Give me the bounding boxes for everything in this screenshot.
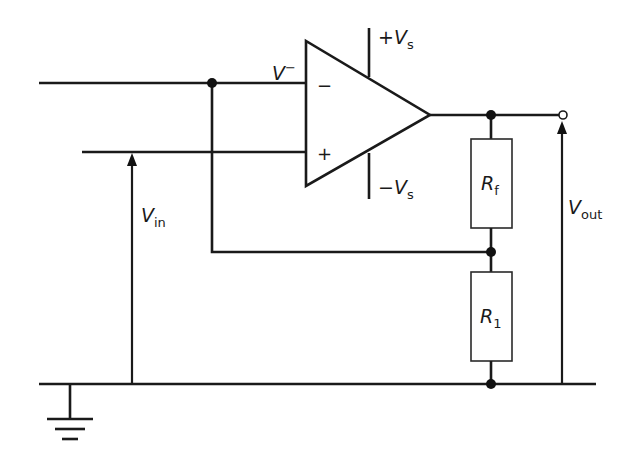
vout-arrow-icon: [557, 121, 567, 384]
negative-supply-label: −Vs: [378, 176, 414, 202]
inverting-node-junction: [207, 78, 217, 88]
vout-label: Vout: [568, 196, 602, 222]
vin-arrow-icon: [127, 153, 137, 384]
op-amp-circuit-diagram: − + V− +Vs −Vs Rf R1 Vin Vout: [0, 0, 631, 464]
ground-icon: [47, 384, 93, 439]
noninverting-symbol: +: [317, 143, 332, 164]
inverting-symbol: −: [317, 75, 332, 96]
positive-supply-label: +Vs: [378, 26, 414, 52]
inverting-node-label: V−: [272, 60, 296, 84]
vin-label: Vin: [141, 204, 166, 230]
output-junction: [486, 110, 496, 120]
output-terminal: [559, 111, 567, 119]
feedback-junction: [486, 247, 496, 257]
ground-junction: [486, 379, 496, 389]
